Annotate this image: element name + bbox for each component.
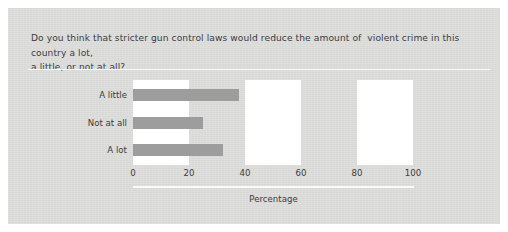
x-tick-label-40: 40 (225, 167, 265, 179)
axis-divider (133, 186, 414, 188)
question-text: Do you think that stricter gun control l… (31, 31, 486, 75)
y-tick-label-not-at-all: Not at all (7, 117, 127, 129)
y-tick-label-a-lot: A lot (7, 144, 127, 156)
bar-not-at-all (133, 117, 203, 129)
header-divider (28, 69, 490, 70)
x-tick-label-80: 80 (337, 167, 377, 179)
figure-root: Do you think that stricter gun control l… (0, 0, 508, 232)
x-tick-label-100: 100 (393, 167, 433, 179)
x-tick-label-20: 20 (169, 167, 209, 179)
background-band-80-100 (357, 80, 413, 165)
chart-panel: Do you think that stricter gun control l… (8, 8, 500, 224)
background-band-40-60 (245, 80, 301, 165)
x-tick-label-0: 0 (113, 167, 153, 179)
y-tick-label-a-little: A little (7, 89, 127, 101)
bar-a-lot (133, 144, 223, 156)
bar-a-little (133, 89, 239, 101)
x-axis-title: Percentage (133, 194, 414, 204)
x-axis-tick-labels: 0 20 40 60 80 100 (133, 167, 413, 179)
plot-area: A little Not at all A lot (133, 80, 413, 165)
x-tick-label-60: 60 (281, 167, 321, 179)
